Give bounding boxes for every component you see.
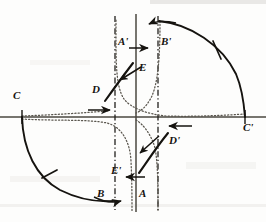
diagram-svg <box>0 0 266 222</box>
flow-arrow-group <box>88 22 192 202</box>
label-c: C <box>13 90 20 101</box>
label-d: D <box>92 84 100 95</box>
label-a: A <box>139 188 146 199</box>
label-c-prime: C' <box>243 122 253 133</box>
arc-upper-right <box>159 21 245 117</box>
label-b-prime: B' <box>161 36 171 47</box>
label-e-prime: E' <box>111 165 121 176</box>
direction-tick-group <box>42 41 221 178</box>
branch-D-to-E <box>105 63 133 101</box>
tick-lower-arc <box>42 170 57 178</box>
label-d-prime: D' <box>169 135 180 146</box>
label-e: E <box>139 62 146 73</box>
label-a-prime: A' <box>118 36 128 47</box>
arrow-branch-de <box>120 67 141 80</box>
branch-A-to-D-prime <box>139 133 168 173</box>
arrow-branch-d-prime <box>140 136 159 153</box>
dotted-left-tail <box>22 111 108 116</box>
axis-group <box>0 14 266 212</box>
figure-canvas: A' B' E D C C' D' E' B A <box>0 0 266 222</box>
label-b: B <box>97 188 104 199</box>
